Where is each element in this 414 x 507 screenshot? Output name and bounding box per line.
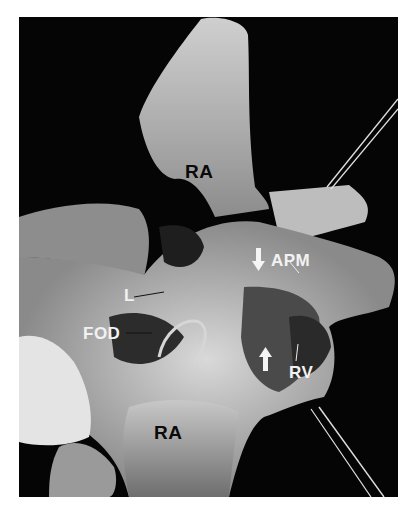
- heart-specimen-photo: RA APM L FOD RV RA: [19, 17, 398, 497]
- label-l: L: [124, 287, 135, 304]
- label-rv: RV: [289, 364, 313, 381]
- specimen-illustration: [19, 17, 398, 497]
- label-ra-top: RA: [185, 162, 213, 181]
- label-apm: APM: [271, 252, 310, 269]
- label-ra-bottom: RA: [154, 423, 182, 442]
- label-fod: FOD: [83, 325, 120, 342]
